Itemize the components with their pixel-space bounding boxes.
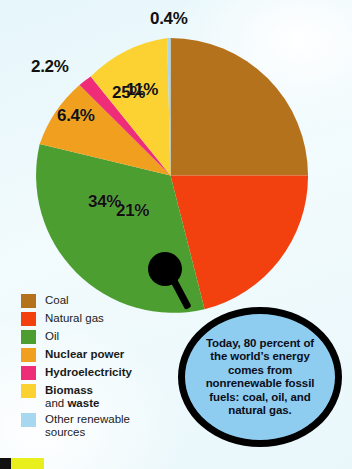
legend-swatch-natural-gas bbox=[21, 312, 36, 326]
legend-item-oil[interactable]: Oil bbox=[21, 329, 191, 345]
legend-item-natural-gas[interactable]: Natural gas bbox=[21, 311, 191, 327]
pie-label-biomass-and-waste: 11% bbox=[126, 80, 158, 100]
legend-label-oil: Oil bbox=[45, 329, 59, 343]
pie-label-other-renewable-sources: 0.4% bbox=[150, 9, 188, 29]
legend-label-other-renewable-sources: Other renewable sources bbox=[45, 412, 165, 439]
legend-swatch-biomass-and-waste bbox=[21, 384, 36, 398]
legend-swatch-hydroelectricity bbox=[21, 366, 36, 380]
legend: Coal Natural gas Oil Nuclear power Hydro… bbox=[21, 293, 191, 441]
pie-label-nuclear-power: 6.4% bbox=[57, 106, 95, 126]
legend-item-other-renewable-sources[interactable]: Other renewable sources bbox=[21, 412, 191, 439]
legend-label-biomass-normal: and bbox=[45, 397, 67, 409]
legend-label-biomass-bold: Biomass bbox=[45, 384, 93, 396]
edge-strip-black-block bbox=[0, 458, 11, 469]
callout-text: Today, 80 percent of the world’s energy … bbox=[185, 337, 335, 418]
pie-slice-coal[interactable] bbox=[171, 38, 309, 176]
legend-swatch-coal bbox=[21, 294, 36, 308]
legend-item-nuclear-power[interactable]: Nuclear power bbox=[21, 347, 191, 363]
legend-item-coal[interactable]: Coal bbox=[21, 293, 191, 309]
energy-sources-infographic: 25% 21% 34% 6.4% 11% 2.2% 0.4% Coal Natu… bbox=[0, 0, 352, 469]
edge-strip-yellow-block bbox=[11, 458, 44, 469]
legend-swatch-oil bbox=[21, 330, 36, 344]
page-edge-strip bbox=[0, 458, 44, 469]
legend-swatch-other-renewable-sources bbox=[21, 413, 36, 427]
callout-bubble: Today, 80 percent of the world’s energy … bbox=[178, 307, 342, 447]
pie-label-hydroelectricity: 2.2% bbox=[31, 57, 69, 77]
legend-label-natural-gas: Natural gas bbox=[45, 311, 104, 325]
legend-label-coal: Coal bbox=[45, 293, 69, 307]
legend-label-hydroelectricity: Hydroelectricity bbox=[45, 365, 132, 379]
legend-swatch-nuclear-power bbox=[21, 348, 36, 362]
pie-label-oil: 34% bbox=[88, 192, 121, 212]
legend-label-nuclear-power: Nuclear power bbox=[45, 347, 124, 361]
legend-label-biomass-bold2: waste bbox=[67, 397, 99, 409]
legend-label-biomass-and-waste: Biomassand waste bbox=[45, 383, 99, 410]
legend-item-hydroelectricity[interactable]: Hydroelectricity bbox=[21, 365, 191, 381]
legend-item-biomass-and-waste[interactable]: Biomassand waste bbox=[21, 383, 191, 410]
callout-pointer-dot bbox=[148, 252, 182, 286]
